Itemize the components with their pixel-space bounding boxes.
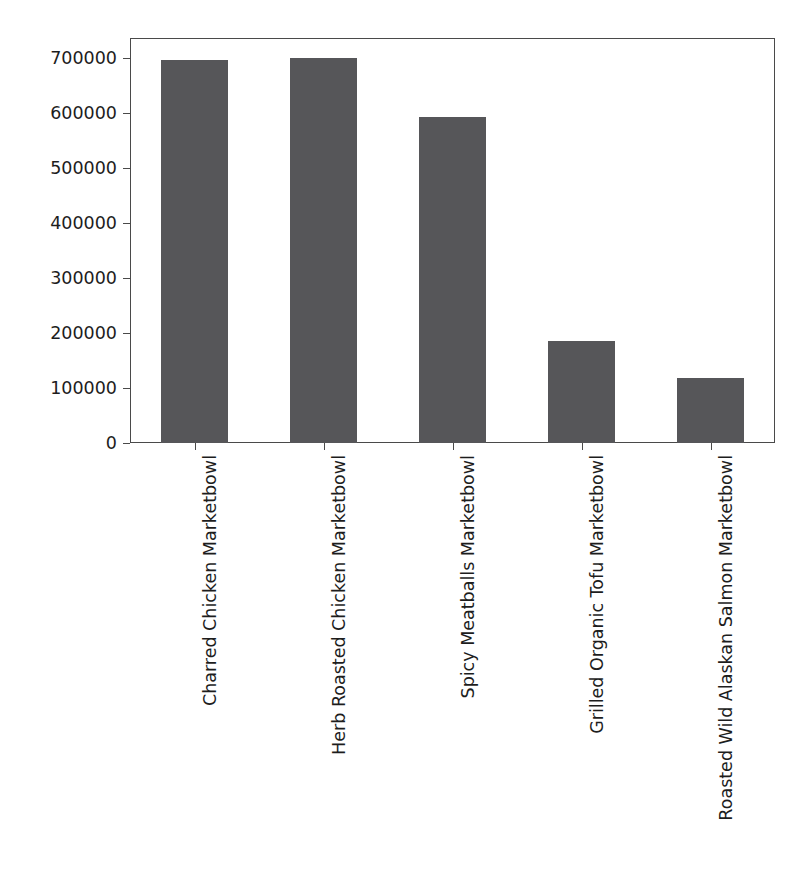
y-tick-label: 300000	[50, 268, 117, 288]
bar	[419, 117, 486, 443]
y-tick-mark	[123, 388, 130, 389]
y-tick-mark	[123, 223, 130, 224]
x-tick-mark	[582, 443, 583, 450]
y-tick-label: 100000	[50, 378, 117, 398]
x-tick-label: Herb Roasted Chicken Marketbowl	[331, 455, 349, 755]
y-tick-label: 400000	[50, 213, 117, 233]
y-tick-label: 600000	[50, 103, 117, 123]
x-tick-label: Grilled Organic Tofu Marketbowl	[589, 455, 607, 734]
bar	[548, 341, 615, 443]
x-tick-label: Charred Chicken Marketbowl	[202, 455, 220, 706]
y-tick-mark	[123, 168, 130, 169]
bar	[290, 58, 357, 443]
y-tick-label: 0	[106, 433, 117, 453]
x-tick-label: Spicy Meatballs Marketbowl	[460, 455, 478, 698]
y-tick-mark	[123, 58, 130, 59]
y-tick-label: 200000	[50, 323, 117, 343]
x-tick-mark	[711, 443, 712, 450]
x-tick-mark	[453, 443, 454, 450]
x-tick-label: Roasted Wild Alaskan Salmon Marketbowl	[718, 455, 736, 821]
x-tick-mark	[195, 443, 196, 450]
y-tick-mark	[123, 443, 130, 444]
y-tick-mark	[123, 113, 130, 114]
bar	[161, 60, 228, 443]
y-tick-label: 700000	[50, 48, 117, 68]
bar	[677, 378, 744, 443]
x-tick-mark	[324, 443, 325, 450]
bar-chart-figure: 0100000200000300000400000500000600000700…	[0, 0, 807, 876]
y-tick-mark	[123, 333, 130, 334]
y-tick-label: 500000	[50, 158, 117, 178]
y-tick-mark	[123, 278, 130, 279]
